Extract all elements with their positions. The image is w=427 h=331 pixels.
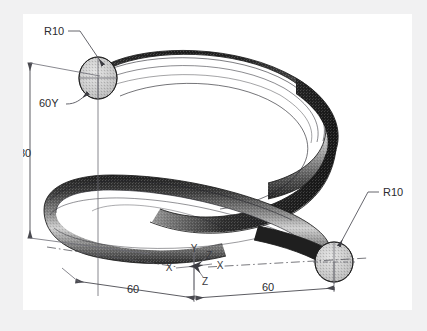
- z-axis-label-lower: Z: [202, 276, 208, 287]
- dimension-width-right-label: 60: [262, 281, 274, 293]
- dimension-height-label: 80: [19, 147, 31, 159]
- callout-r10-lower-right-label: R10: [383, 186, 403, 198]
- dimension-width-left-label: 60: [127, 283, 139, 295]
- callout-offset-60y: 60Y: [39, 93, 88, 109]
- y-axis-label: Y: [191, 243, 198, 254]
- x-axis-label-left: X: [166, 262, 173, 273]
- dimension-width-left-60: 60: [76, 281, 194, 298]
- callout-offset-60y-label: 60Y: [39, 97, 59, 109]
- x-axis-label-right: X: [217, 260, 224, 271]
- coil-upper-surface-lines: [108, 58, 324, 143]
- technical-drawing-canvas: 80 60 60: [0, 0, 427, 331]
- dimension-width-right-60: 60: [196, 281, 334, 298]
- callout-r10-lower-right: R10: [339, 186, 403, 246]
- callout-r10-upper-left-label: R10: [44, 25, 64, 37]
- screenshot-root: 80 60 60: [0, 0, 427, 331]
- z-axis-label-upper: Z: [206, 250, 212, 261]
- helical-coil-solid: [44, 50, 355, 284]
